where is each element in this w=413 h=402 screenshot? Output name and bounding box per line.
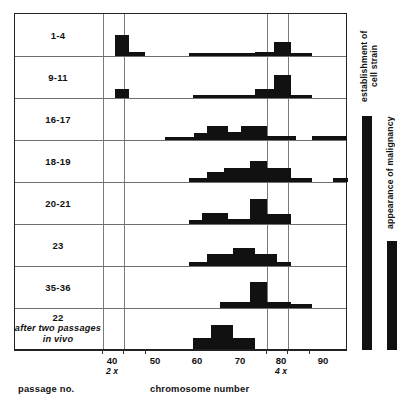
bar-row4-92-97 — [333, 178, 348, 182]
row-label-9-11: 9-11 — [14, 72, 102, 83]
row-label-35-36: 35-36 — [14, 282, 102, 293]
bar-row1-78-83 — [274, 42, 291, 56]
row-label-22-line2: after two passages — [10, 323, 106, 334]
bar-row8-67-72 — [233, 338, 255, 349]
tick-mark-40 — [102, 350, 103, 354]
row-label-16-17: 16-17 — [14, 114, 102, 125]
tick-mark-90 — [309, 350, 310, 354]
row-separator-3 — [15, 140, 346, 141]
tick-label-90: 90 — [308, 355, 338, 366]
bar-row4-62-66 — [207, 172, 225, 182]
row-label-18-19: 18-19 — [14, 156, 102, 167]
chromosome-number-histogram-figure: 1-4 9-11 16-17 18-19 20-21 23 35-36 22 a… — [0, 0, 413, 402]
bar-row2-78-83 — [274, 75, 291, 98]
bar-row5-77-83 — [267, 214, 291, 224]
bar-row3-52-59 — [165, 137, 194, 140]
bar-row3-88-97 — [312, 136, 347, 140]
bar-row1-56-72 — [189, 53, 255, 56]
tick-label-70: 70 — [225, 355, 255, 366]
bar-row1-83-88 — [291, 53, 312, 56]
appearance-of-malignancy-label: appearance of malignancy — [385, 110, 399, 236]
row-label-20-21: 20-21 — [14, 198, 102, 209]
establishment-of-cell-strain-label: establishment of cell strain — [359, 18, 377, 114]
bar-row5-67-72 — [228, 219, 250, 224]
bar-row6-62-68 — [207, 254, 233, 266]
x-axis-line — [14, 350, 347, 351]
tick-mark-85 — [287, 350, 288, 354]
chromosome-number-caption: chromosome number — [150, 383, 249, 394]
bar-row6-78-82 — [267, 262, 291, 266]
bar-row2-57-73 — [193, 95, 259, 98]
establishment-label-line1: establishment of — [359, 30, 369, 101]
bar-row5-61-67 — [202, 213, 228, 224]
ploidy-label-4x: 4 x — [266, 366, 296, 376]
bar-row4-76-82 — [267, 168, 291, 182]
bar-row1-39-42 — [115, 35, 129, 56]
bar-row3-76-83 — [267, 136, 296, 140]
tick-mark-80 — [266, 350, 267, 354]
row-separator-4 — [15, 182, 346, 183]
bar-row4-72-76 — [250, 161, 267, 182]
bar-row4-82-87 — [291, 178, 312, 182]
row-label-1-4: 1-4 — [14, 30, 102, 41]
bar-row6-68-72 — [233, 248, 255, 266]
bar-row2-83-88 — [291, 95, 312, 98]
tick-label-60: 60 — [182, 355, 212, 366]
bar-row3-59-62 — [194, 133, 207, 140]
bar-row3-62-67 — [207, 126, 228, 140]
bar-row7-83-88 — [291, 304, 312, 308]
bar-row7-73-77 — [250, 282, 267, 308]
tick-mark-45 — [123, 350, 124, 354]
tick-mark-50 — [145, 350, 146, 354]
row-separator-2 — [15, 98, 346, 99]
bar-row1-42-46 — [129, 52, 145, 56]
row-separator-5 — [15, 224, 346, 225]
bar-row2-39-42 — [115, 89, 129, 98]
tick-label-80: 80 — [266, 355, 296, 366]
appearance-of-malignancy-bar — [387, 241, 397, 350]
bar-row3-67-70 — [228, 132, 241, 140]
plot-frame — [14, 13, 347, 350]
row-label-22-in-vivo: 22 after two passages in vivo — [10, 312, 106, 345]
bar-row8-62-67 — [211, 325, 233, 349]
ploidy-label-2x: 2 x — [97, 366, 127, 376]
bar-row7-77-83 — [267, 302, 291, 308]
tick-label-40: 40 — [97, 355, 127, 366]
row-label-22-line3: in vivo — [10, 334, 106, 345]
establishment-label-line2: cell strain — [369, 45, 379, 87]
row-separator-1 — [15, 56, 346, 57]
passage-no-caption: passage no. — [18, 383, 74, 394]
establishment-of-cell-strain-bar — [362, 116, 372, 350]
row-label-23: 23 — [14, 240, 102, 251]
row-separator-7 — [15, 308, 346, 309]
bar-row3-70-76 — [241, 126, 267, 140]
bar-row2-73-78 — [255, 89, 274, 98]
bar-row5-72-77 — [250, 199, 267, 224]
tick-label-50: 50 — [140, 355, 170, 366]
bar-row4-66-72 — [224, 168, 250, 182]
row-label-22-line1: 22 — [53, 312, 64, 323]
row-separator-6 — [15, 266, 346, 267]
